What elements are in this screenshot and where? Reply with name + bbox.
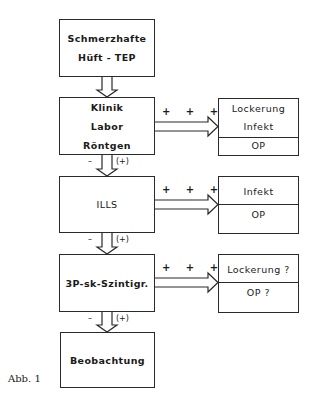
positive-label-2: + + + — [162, 184, 224, 195]
down-arrow-4 — [97, 312, 117, 332]
diagnosis-text: Lockerung ? — [227, 261, 290, 279]
outcome-diagnosis: Lockerung ? — [219, 255, 298, 283]
outcome-action: OP — [219, 136, 298, 155]
diagnosis-text: Infekt — [243, 183, 273, 201]
outcome-loosening-infection: Lockerung Infekt OP — [218, 98, 299, 156]
step-observation: Beobachtung — [60, 332, 155, 388]
positive-label-1: + + + — [162, 106, 224, 117]
negative-label-1: – — [88, 157, 92, 166]
down-arrow-2 — [97, 155, 117, 176]
step-text: Klinik — [91, 98, 124, 117]
right-arrow-2 — [154, 195, 218, 214]
step-ills: ILLS — [59, 176, 155, 233]
step-text: ILLS — [96, 195, 117, 214]
uncertain-label-1: (+) — [116, 157, 129, 166]
action-text: OP — [251, 140, 265, 151]
right-arrow-1 — [154, 117, 218, 136]
step-painful-hip-tep: Schmerzhafte Hüft - TEP — [59, 19, 155, 77]
down-arrow-3 — [97, 233, 117, 254]
action-text: OP — [251, 209, 265, 220]
action-text: OP ? — [247, 287, 270, 298]
figure-caption: Abb. 1 — [8, 373, 41, 384]
step-text: Hüft - TEP — [78, 48, 136, 67]
right-arrow-3 — [154, 273, 218, 292]
diagnosis-text: Lockerung — [232, 100, 286, 118]
diagnosis-text: Infekt — [243, 118, 273, 136]
step-text: Schmerzhafte — [68, 29, 147, 48]
outcome-loosening-uncertain: Lockerung ? OP ? — [218, 254, 299, 313]
negative-label-2: – — [88, 235, 92, 244]
outcome-infection: Infekt OP — [218, 176, 299, 234]
step-3p-scintigraphy: 3P-sk-Szintigr. — [59, 254, 155, 312]
step-text: Labor — [91, 117, 123, 136]
outcome-action: OP — [219, 204, 298, 233]
outcome-diagnosis: Infekt — [219, 177, 298, 205]
down-arrow-1 — [97, 77, 117, 97]
negative-label-3: – — [88, 314, 92, 323]
step-clinic-lab-xray: Klinik Labor Röntgen — [59, 97, 155, 155]
step-text: Röntgen — [83, 136, 131, 155]
step-text: 3P-sk-Szintigr. — [65, 274, 148, 293]
outcome-diagnosis: Lockerung Infekt — [219, 99, 298, 138]
uncertain-label-3: (+) — [116, 314, 129, 323]
uncertain-label-2: (+) — [116, 235, 129, 244]
outcome-action: OP ? — [219, 282, 298, 312]
step-text: Beobachtung — [70, 351, 145, 370]
positive-label-3: + + + — [162, 262, 224, 273]
